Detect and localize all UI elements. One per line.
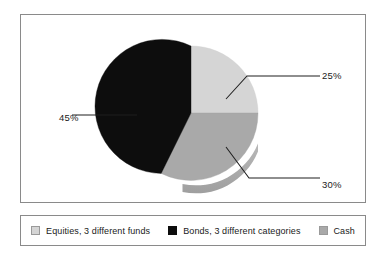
legend-label-bonds: Bonds, 3 different categories xyxy=(183,226,300,236)
data-label-bonds: 45% xyxy=(59,112,79,123)
data-label-cash: 30% xyxy=(322,179,342,190)
data-label-equities: 25% xyxy=(322,70,342,81)
chart-plot-area: 25% 30% 45% xyxy=(20,14,366,203)
legend-item-bonds: Bonds, 3 different categories xyxy=(168,226,300,236)
pie-container: 25% 30% 45% xyxy=(21,15,365,202)
legend-swatch-cash-icon xyxy=(319,226,328,235)
pie-chart-figure: 25% 30% 45% Equities, 3 different funds … xyxy=(0,0,383,257)
legend-swatch-equities-icon xyxy=(31,226,40,235)
legend-label-equities: Equities, 3 different funds xyxy=(46,226,150,236)
legend-item-equities: Equities, 3 different funds xyxy=(31,226,150,236)
pie-slice-equities xyxy=(191,46,258,113)
legend-item-cash: Cash xyxy=(319,226,355,236)
legend-swatch-bonds-icon xyxy=(168,226,177,235)
legend-label-cash: Cash xyxy=(334,226,355,236)
chart-legend: Equities, 3 different funds Bonds, 3 dif… xyxy=(20,215,366,246)
pie-chart-svg xyxy=(21,15,365,202)
